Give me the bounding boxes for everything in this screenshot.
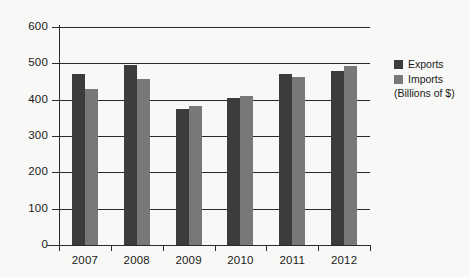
bar-imports-2011	[292, 77, 305, 245]
gridline	[59, 172, 370, 173]
gridline	[59, 209, 370, 210]
x-tick-label-2012: 2012	[318, 254, 370, 267]
y-tick	[52, 245, 59, 246]
y-tick	[52, 136, 59, 137]
gridline	[59, 100, 370, 101]
bar-imports-2009	[189, 106, 202, 245]
bar-exports-2010	[227, 98, 240, 245]
x-tick-label-2008: 2008	[111, 254, 163, 267]
y-tick-label: 0	[4, 239, 48, 251]
gridline	[59, 136, 370, 137]
x-tick-label-2011: 2011	[266, 254, 318, 267]
y-tick	[52, 63, 59, 64]
plot-area	[59, 27, 370, 245]
y-tick-label: 400	[4, 94, 48, 106]
bar-imports-2010	[240, 96, 253, 245]
y-tick	[52, 172, 59, 173]
x-tick	[370, 245, 371, 251]
x-tick	[215, 245, 216, 251]
legend-label-exports: Exports	[408, 59, 444, 70]
x-tick-label-2010: 2010	[214, 254, 266, 267]
bar-exports-2008	[124, 65, 137, 245]
legend-swatch-imports-icon	[394, 75, 403, 84]
y-tick-label: 100	[4, 203, 48, 215]
legend-item-exports: Exports	[394, 58, 470, 70]
legend-units-note: (Billions of $)	[394, 88, 470, 99]
x-tick	[59, 245, 60, 251]
x-tick	[111, 245, 112, 251]
legend: Exports Imports (Billions of $)	[394, 58, 470, 99]
legend-label-imports: Imports	[408, 74, 443, 85]
y-tick-label: 200	[4, 166, 48, 178]
y-tick	[52, 209, 59, 210]
x-tick	[266, 245, 267, 251]
x-tick	[318, 245, 319, 251]
legend-swatch-exports-icon	[394, 60, 403, 69]
y-tick	[52, 100, 59, 101]
y-tick-label: 500	[4, 57, 48, 69]
y-axis-labels: 0100200300400500600	[0, 0, 48, 277]
bar-imports-2012	[344, 66, 357, 245]
gridline	[59, 27, 370, 28]
y-tick	[52, 27, 59, 28]
bar-imports-2007	[85, 89, 98, 245]
x-tick-label-2007: 2007	[59, 254, 111, 267]
bar-imports-2008	[137, 79, 150, 245]
y-tick-label: 300	[4, 130, 48, 142]
legend-item-imports: Imports	[394, 73, 470, 85]
bar-exports-2009	[176, 109, 189, 245]
gridline	[59, 63, 370, 64]
bar-exports-2012	[331, 71, 344, 245]
bar-chart: 0100200300400500600 20072008200920102011…	[0, 0, 470, 277]
x-tick	[163, 245, 164, 251]
bar-exports-2007	[72, 74, 85, 245]
y-tick-label: 600	[4, 21, 48, 33]
x-tick-label-2009: 2009	[163, 254, 215, 267]
x-axis-line	[47, 245, 370, 246]
bar-exports-2011	[279, 74, 292, 245]
y-axis-line	[59, 25, 60, 247]
